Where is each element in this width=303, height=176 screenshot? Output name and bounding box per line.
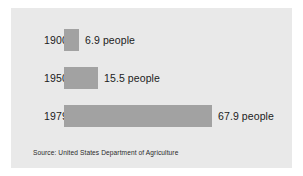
bar-value-label: 67.9 people: [218, 110, 274, 122]
chart-screenshot: 1900 6.9 people 1950 15.5 people 1979 67…: [0, 0, 303, 176]
bar-1950: [64, 67, 98, 89]
bar-track: 15.5 people: [64, 67, 292, 89]
bar-1979: [64, 105, 212, 127]
bar-row: 1979 67.9 people: [11, 105, 292, 127]
bar-track: 67.9 people: [64, 105, 292, 127]
bar-value-label: 15.5 people: [104, 72, 160, 84]
bar-row: 1900 6.9 people: [11, 29, 292, 51]
bar-1900: [64, 29, 79, 51]
source-note: Source: United States Department of Agri…: [33, 149, 178, 156]
bar-track: 6.9 people: [64, 29, 292, 51]
chart-panel: 1900 6.9 people 1950 15.5 people 1979 67…: [11, 8, 292, 168]
bar-row: 1950 15.5 people: [11, 67, 292, 89]
bar-value-label: 6.9 people: [85, 34, 135, 46]
